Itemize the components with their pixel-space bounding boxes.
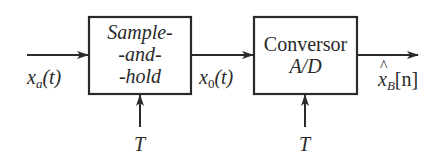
sh-line-1: Sample- — [89, 21, 191, 43]
output-signal-label: xB[n] — [378, 69, 418, 89]
intermediate-arg: (t) — [214, 66, 233, 88]
control-label-ad: T — [299, 134, 310, 154]
control-label-sh: T — [134, 134, 145, 154]
input-var: x — [27, 66, 36, 88]
output-sub: B — [387, 78, 395, 93]
input-arg: (t) — [42, 66, 61, 88]
ad-line-1: Conversor — [254, 33, 357, 55]
sample-and-hold-label: Sample- -and- -hold — [89, 21, 191, 87]
intermediate-signal-label: x0(t) — [199, 67, 233, 87]
ad-converter-label: Conversor A/D — [254, 33, 357, 77]
sh-line-2: -and- — [89, 43, 191, 65]
ad-line-2: A/D — [254, 55, 357, 77]
sh-line-3: -hold — [89, 65, 191, 87]
input-signal-label: xa(t) — [27, 67, 61, 87]
intermediate-var: x — [199, 66, 208, 88]
output-arg: [n] — [395, 68, 418, 90]
output-var: x — [378, 69, 387, 89]
